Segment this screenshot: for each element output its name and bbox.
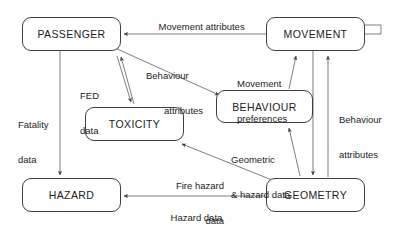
edge-label-behaviour-attributes-right: Behaviour attributes	[339, 91, 382, 183]
edge-label-fatality-data: Fatality data	[18, 96, 49, 188]
edge-geometry-to-behaviour	[289, 128, 300, 176]
flow-diagram: PASSENGER MOVEMENT TOXICITY BEHAVIOUR HA…	[0, 0, 396, 226]
edge-behaviour-to-movement	[289, 56, 296, 89]
fed-data-line1: FED	[80, 90, 99, 102]
behaviour-attributes-right-line2: attributes	[339, 149, 382, 161]
movement-attributes-text: Movement attributes	[159, 21, 245, 32]
edge-toxicity-to-passenger	[121, 57, 134, 104]
behaviour-attributes-left-line2: attributes	[146, 105, 203, 117]
hazard-data-text: Hazard data	[171, 212, 223, 223]
edge-label-behaviour-attributes-left: Behaviour attributes	[146, 47, 203, 139]
fed-data-line2: data	[80, 125, 99, 137]
geometric-hazard-data-line2: & hazard data	[231, 189, 290, 201]
movement-preferences-line1: Movement	[237, 78, 287, 90]
node-hazard-label: HAZARD	[49, 189, 95, 201]
fire-hazard-data-line1: Fire hazard	[152, 180, 224, 192]
behaviour-attributes-left-line1: Behaviour	[146, 70, 203, 82]
edge-label-movement-attributes: Movement attributes	[148, 9, 245, 44]
geometric-hazard-data-line1: Geometric	[231, 154, 290, 166]
movement-preferences-line2: preferences	[237, 113, 287, 125]
behaviour-attributes-right-line1: Behaviour	[339, 114, 382, 126]
fatality-data-line1: Fatality	[18, 119, 49, 131]
node-passenger[interactable]: PASSENGER	[22, 17, 121, 51]
node-passenger-label: PASSENGER	[37, 28, 105, 40]
edge-label-geometric-hazard-data: Geometric & hazard data	[231, 131, 290, 223]
edge-passenger-to-toxicity	[117, 56, 131, 102]
node-geometry-label: GEOMETRY	[284, 189, 347, 201]
fatality-data-line2: data	[18, 154, 49, 166]
node-movement[interactable]: MOVEMENT	[266, 17, 365, 51]
edge-label-hazard-data: Hazard data	[160, 200, 222, 226]
edge-label-fed-data: FED data	[80, 67, 99, 159]
node-movement-label: MOVEMENT	[284, 28, 348, 40]
